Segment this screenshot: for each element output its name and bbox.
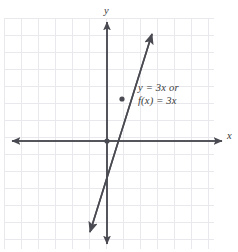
function-line-y-equals-3x xyxy=(90,34,152,232)
x-axis-label: x xyxy=(227,130,232,141)
point-origin xyxy=(104,138,109,143)
coordinate-plane-graph xyxy=(0,0,238,252)
equation-line-1: y = 3x or xyxy=(138,81,179,94)
point-1-3 xyxy=(119,96,124,101)
equation-annotation: y = 3x or f(x) = 3x xyxy=(138,81,179,107)
grid-lines xyxy=(4,18,214,249)
equation-line-2: f(x) = 3x xyxy=(138,94,179,107)
graph-figure: y = 3x or f(x) = 3x y x xyxy=(0,0,238,252)
y-axis-label: y xyxy=(104,5,109,16)
